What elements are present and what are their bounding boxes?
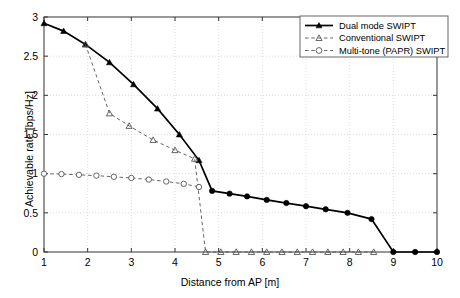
- x-tick-label: 8: [347, 256, 353, 268]
- x-tick-label: 2: [85, 256, 91, 268]
- y-tick-label: 1.5: [23, 128, 38, 140]
- data-point-marker: [209, 188, 214, 193]
- x-tick-label: 9: [390, 256, 396, 268]
- x-tick-label: 1: [41, 256, 47, 268]
- x-tick-label: 7: [303, 256, 309, 268]
- x-tick-label: 3: [128, 256, 134, 268]
- data-point-marker: [150, 137, 156, 143]
- y-tick-label: 2: [32, 89, 38, 101]
- data-point-marker: [323, 207, 328, 212]
- data-point-marker: [244, 194, 249, 199]
- data-point-marker: [164, 179, 169, 184]
- x-tick-label: 10: [431, 256, 443, 268]
- y-tick-label: 0.5: [23, 207, 38, 219]
- y-tick-label: 3: [32, 11, 38, 23]
- data-point-marker: [146, 177, 151, 182]
- data-point-marker: [181, 181, 186, 186]
- chart-canvas: 1234567891000.511.522.53Dual mode SWIPTC…: [0, 0, 460, 298]
- data-point-marker: [369, 216, 374, 221]
- data-point-marker: [111, 174, 116, 179]
- data-point-marker: [303, 203, 308, 208]
- data-point-marker: [264, 197, 269, 202]
- series-line: [85, 44, 373, 252]
- data-point-marker: [227, 191, 232, 196]
- data-point-marker: [284, 200, 289, 205]
- x-tick-label: 4: [172, 256, 178, 268]
- legend-label: Multi-tone (PAPR) SWIPT: [339, 46, 446, 56]
- chart-legend: Dual mode SWIPTConventional SWIPTMulti-t…: [300, 16, 448, 57]
- data-point-marker: [412, 249, 417, 254]
- legend-label: Dual mode SWIPT: [339, 21, 416, 31]
- series-1: [82, 41, 376, 254]
- data-point-marker: [59, 171, 64, 176]
- x-tick-label: 5: [216, 256, 222, 268]
- data-point-marker: [129, 175, 134, 180]
- series-line: [44, 174, 199, 187]
- series-line: [44, 23, 437, 252]
- data-point-marker: [345, 210, 350, 215]
- data-point-marker: [434, 249, 439, 254]
- chart-figure: Achievable rate [bps/Hz] Distance from A…: [0, 0, 460, 298]
- y-tick-label: 0: [32, 246, 38, 258]
- y-tick-label: 2.5: [23, 50, 38, 62]
- x-tick-label: 6: [259, 256, 265, 268]
- y-tick-label: 1: [32, 167, 38, 179]
- data-point-marker: [391, 249, 396, 254]
- legend-label: Conventional SWIPT: [339, 33, 426, 43]
- data-point-marker: [41, 20, 47, 25]
- data-point-marker: [316, 48, 322, 54]
- data-point-marker: [196, 184, 201, 189]
- data-point-marker: [76, 172, 81, 177]
- data-point-marker: [94, 173, 99, 178]
- data-point-marker: [41, 171, 46, 176]
